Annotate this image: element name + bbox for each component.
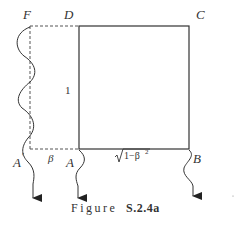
- label-sqrt-one-minus-beta-squared: 1−β 2: [115, 148, 150, 162]
- label-F: F: [22, 7, 32, 22]
- label-A: A: [65, 155, 74, 170]
- sqrt-expression: 1−β: [124, 150, 140, 161]
- wave-photon-B: [184, 150, 193, 196]
- figure-diagram: F D C 1 A ′ β A B 1−β 2 Figure S.2.4a: [0, 0, 239, 227]
- caption-number: S.2.4a: [126, 201, 160, 215]
- label-A-prime-mark: ′: [22, 151, 24, 162]
- label-D: D: [63, 7, 74, 22]
- label-C: C: [196, 7, 205, 22]
- square-outline: [79, 26, 189, 149]
- caption-prefix: Figure: [71, 201, 117, 215]
- wave-photon-A: [76, 150, 84, 198]
- stray-mark: [232, 195, 233, 196]
- label-side-1: 1: [65, 84, 71, 96]
- label-beta: β: [47, 152, 54, 164]
- sqrt-exponent: 2: [145, 148, 149, 156]
- wave-photon-F: [17, 27, 35, 198]
- label-A-prime: A: [12, 155, 21, 170]
- label-B: B: [193, 151, 201, 166]
